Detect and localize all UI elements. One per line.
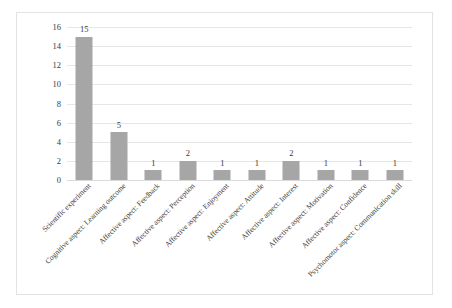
bar-value-label: 2 [186,149,190,158]
bar-slot: 1 [378,27,413,180]
bar-slot: 1 [240,27,275,180]
bar-slot: 1 [309,27,344,180]
bar-value-label: 5 [117,121,121,130]
bar[interactable] [386,170,403,180]
y-axis-tick-label: 4 [57,138,61,147]
bar-slot: 15 [67,27,102,180]
bar-slot: 1 [205,27,240,180]
bar-slot: 2 [171,27,206,180]
x-axis-tick-label: Affective aspect: Enjoyment [164,182,232,250]
bar-value-label: 15 [80,25,89,34]
bar-slot: 5 [102,27,137,180]
bar[interactable] [110,132,127,180]
bar-value-label: 1 [151,159,155,168]
x-axis-tick-label: Affective aspect: Motivation [267,182,335,250]
y-axis-tick-label: 12 [53,61,62,70]
y-axis-tick-label: 8 [57,99,61,108]
bar[interactable] [214,170,231,180]
bar-value-label: 2 [289,149,293,158]
bar-value-label: 1 [220,159,224,168]
x-axis-tick-label: Affective aspect: Feedback [98,182,163,247]
y-axis-tick-label: 0 [57,176,61,185]
bar-value-label: 1 [393,159,397,168]
gridline [67,180,412,181]
bar-slot: 2 [274,27,309,180]
x-axis-category-labels: Scientific experimentCognitive aspect: L… [67,182,412,292]
bar-value-label: 1 [324,159,328,168]
bar-slot: 1 [343,27,378,180]
bar-series: 15512112111 [67,27,412,180]
bar[interactable] [179,161,196,180]
bar-value-label: 1 [358,159,362,168]
chart-figure: 0246810121416 15512112111 Scientific exp… [16,12,433,295]
x-axis-tick-label: Affective aspect: Perception [130,182,197,249]
x-axis-tick-label: Affective aspect: Confidence [301,182,370,251]
bar[interactable] [145,170,162,180]
y-axis-tick-label: 16 [53,23,62,32]
bar[interactable] [283,161,300,180]
bar[interactable] [76,37,93,180]
plot-area: 0246810121416 15512112111 [67,27,412,180]
y-axis-tick-label: 14 [53,42,62,51]
bar[interactable] [317,170,334,180]
y-axis-tick-label: 10 [53,80,62,89]
bar[interactable] [352,170,369,180]
y-axis-tick-label: 2 [57,157,61,166]
bar[interactable] [248,170,265,180]
bar-value-label: 1 [255,159,259,168]
y-axis-tick-label: 6 [57,118,61,127]
bar-slot: 1 [136,27,171,180]
